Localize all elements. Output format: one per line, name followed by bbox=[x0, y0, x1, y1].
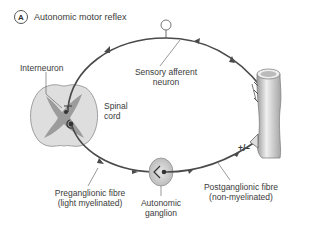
label-preganglionic-2: (light myelinated) bbox=[48, 198, 132, 208]
label-sign: +/– bbox=[238, 143, 250, 153]
label-sensory-1: Sensory afferent bbox=[128, 67, 204, 77]
label-ganglion-2: ganglion bbox=[134, 208, 188, 218]
spinal-cord bbox=[31, 85, 98, 147]
label-spinal-cord-2: cord bbox=[104, 111, 121, 121]
label-interneuron: Interneuron bbox=[20, 63, 63, 73]
label-postganglionic-2: (non-myelinated) bbox=[196, 192, 286, 202]
label-ganglion-1: Autonomic bbox=[134, 198, 188, 208]
blood-vessel bbox=[250, 69, 281, 158]
label-preganglionic-1: Preganglionic fibre bbox=[48, 188, 132, 198]
receptor-icon bbox=[161, 20, 171, 30]
label-sensory-2: neuron bbox=[128, 77, 204, 87]
label-spinal-cord-1: Spinal bbox=[104, 101, 128, 111]
label-postganglionic-1: Postganglionic fibre bbox=[196, 182, 286, 192]
